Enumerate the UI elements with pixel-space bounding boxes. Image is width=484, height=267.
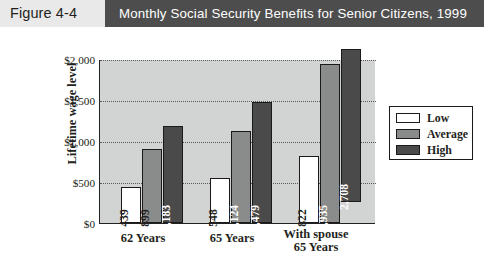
y-tick-label-0: $0 bbox=[49, 219, 95, 230]
plot-area: 439 899 1,183 548 1,124 1,479 822 1,935 … bbox=[99, 60, 375, 224]
legend-label-average: Average bbox=[427, 128, 468, 141]
bar-value-label: 822 bbox=[297, 209, 309, 226]
bar-value-label: 2,708 bbox=[339, 184, 351, 210]
legend-label-low: Low bbox=[427, 112, 449, 125]
category-label-withspouse-line2: 65 Years bbox=[268, 241, 364, 255]
bar-62years-low[interactable]: 439 bbox=[121, 187, 141, 223]
legend-swatch-high-icon bbox=[396, 145, 420, 155]
y-tick-label-1500: $1,500 bbox=[49, 96, 95, 107]
category-label-62years: 62 Years bbox=[100, 232, 186, 246]
y-tick-label-2000: $2,000 bbox=[49, 55, 95, 66]
figure-container: Figure 4-4 Monthly Social Security Benef… bbox=[0, 0, 484, 267]
bar-value-label: 899 bbox=[140, 209, 152, 226]
bar-62years-high[interactable]: 1,183 bbox=[163, 126, 183, 223]
legend-swatch-low-icon bbox=[396, 113, 420, 123]
bar-withspouse-high[interactable]: 2,708 bbox=[341, 49, 361, 202]
bar-withspouse-average[interactable]: 1,935 bbox=[320, 64, 340, 223]
y-tick-label-500: $500 bbox=[49, 178, 95, 189]
bar-value-label: 1,479 bbox=[250, 205, 262, 231]
bar-65years-high[interactable]: 1,479 bbox=[252, 102, 272, 223]
bar-value-label: 439 bbox=[119, 209, 131, 226]
bar-65years-average[interactable]: 1,124 bbox=[231, 131, 251, 223]
legend-label-high: High bbox=[427, 144, 452, 157]
title-bar: Monthly Social Security Benefits for Sen… bbox=[105, 0, 484, 27]
bar-value-label: 548 bbox=[208, 209, 220, 226]
y-tick-label-1000: $1,000 bbox=[49, 137, 95, 148]
bar-value-label: 1,183 bbox=[161, 205, 173, 231]
gridline-2000 bbox=[100, 60, 376, 61]
bar-65years-low[interactable]: 548 bbox=[210, 178, 230, 223]
chart-title: Monthly Social Security Benefits for Sen… bbox=[119, 3, 467, 24]
legend: Low Average High bbox=[389, 106, 473, 160]
bar-withspouse-low[interactable]: 822 bbox=[299, 156, 319, 223]
legend-swatch-average-icon bbox=[396, 129, 420, 139]
y-axis: Lifetime wage level $2,000 $1,500 $1,000… bbox=[45, 0, 95, 267]
bar-value-label: 1,124 bbox=[229, 205, 241, 231]
bar-62years-average[interactable]: 899 bbox=[142, 149, 162, 223]
category-label-65years: 65 Years bbox=[189, 232, 275, 246]
